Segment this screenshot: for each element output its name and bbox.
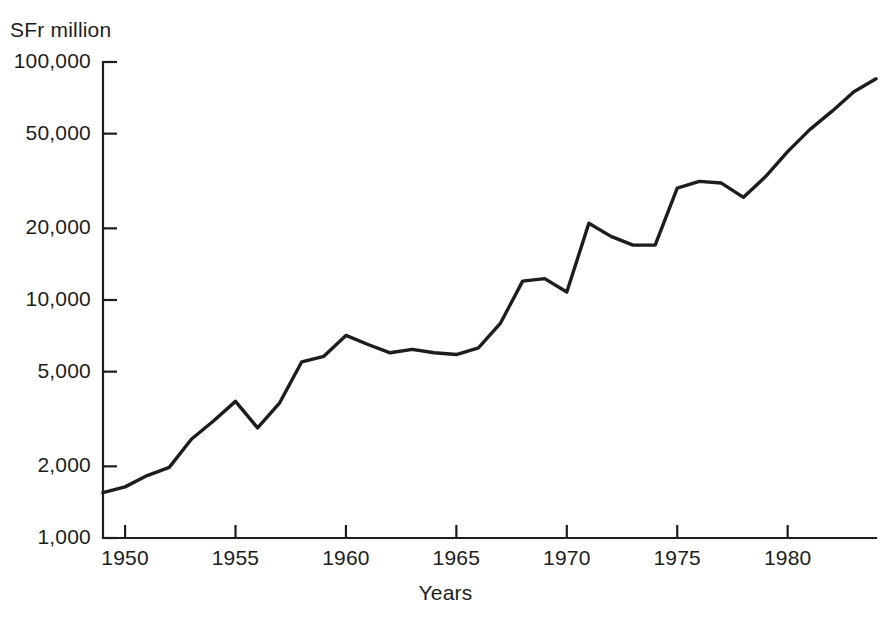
x-tick-label: 1965	[406, 546, 506, 570]
y-tick-label: 5,000	[0, 359, 91, 383]
x-tick-label: 1970	[517, 546, 617, 570]
y-tick-label: 10,000	[0, 287, 91, 311]
y-tick-label: 100,000	[0, 49, 91, 73]
axes	[103, 62, 876, 538]
plot-area	[0, 0, 891, 624]
y-axis-tick-marks	[103, 62, 117, 538]
x-tick-label: 1980	[738, 546, 838, 570]
y-tick-label: 2,000	[0, 453, 91, 477]
chart-figure: SFr million Years 1,0002,0005,00010,0002…	[0, 0, 891, 624]
x-axis-tick-marks	[125, 525, 788, 538]
y-tick-label: 20,000	[0, 215, 91, 239]
data-series-line	[103, 79, 876, 493]
x-tick-label: 1950	[75, 546, 175, 570]
x-tick-label: 1955	[186, 546, 286, 570]
x-tick-label: 1960	[296, 546, 396, 570]
y-tick-label: 50,000	[0, 121, 91, 145]
x-tick-label: 1975	[627, 546, 727, 570]
